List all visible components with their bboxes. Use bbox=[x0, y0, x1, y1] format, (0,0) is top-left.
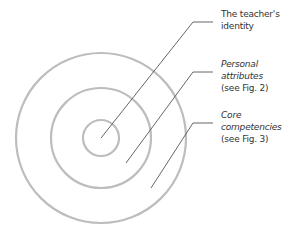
label-teachers-identity: The teacher's identity bbox=[221, 8, 280, 32]
label-identity-line1: The teacher's bbox=[221, 8, 280, 20]
leader-line-core-competencies bbox=[151, 123, 213, 188]
label-core-competencies-line2: (see Fig. 3) bbox=[221, 133, 299, 145]
label-identity-line2: identity bbox=[221, 20, 280, 32]
label-personal-attributes: Personal attributes (see Fig. 2) bbox=[221, 58, 299, 94]
label-core-competencies: Core competencies (see Fig. 3) bbox=[221, 109, 299, 145]
label-personal-attributes-line1: Personal attributes bbox=[221, 58, 299, 82]
leader-line-personal-attributes bbox=[126, 72, 213, 163]
label-core-competencies-line1: Core competencies bbox=[221, 109, 299, 133]
label-personal-attributes-line2: (see Fig. 2) bbox=[221, 82, 299, 94]
